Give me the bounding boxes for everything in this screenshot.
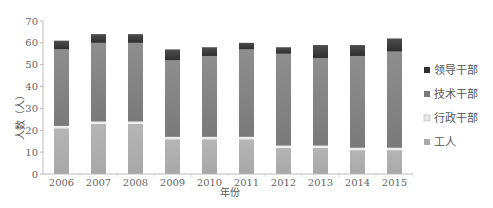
y-tick-label: 10 [25,147,38,158]
x-tick-label: 2010 [197,177,222,188]
x-tick-label: 2013 [308,177,333,188]
x-tick-label: 2006 [49,177,74,188]
x-tick-label: 2012 [271,177,296,188]
legend-label: 领导干部 [434,63,478,77]
bar-segment [54,49,69,126]
y-tick-label: 0 [32,169,38,180]
bar-2007 [91,34,106,174]
bar-segment [276,148,291,174]
bar-segment [313,146,328,148]
x-axis-title: 年份 [220,186,240,198]
bar-segment [91,124,106,174]
y-tick-label: 60 [25,37,38,48]
bar-segment [387,52,402,148]
legend-label: 技术干部 [434,87,478,101]
bar-segment [313,58,328,145]
bar-segment [313,148,328,174]
bar-segment [350,150,365,174]
legend-item: 技术干部 [424,87,478,101]
bar-segment [91,34,106,43]
bar-segment [165,139,180,174]
bar-segment [350,148,365,150]
legend-swatch [424,115,430,121]
bar-segment [239,49,254,136]
legend-item: 领导干部 [424,63,478,77]
bar-segment [128,34,143,43]
legend-label: 行政干部 [434,111,478,125]
bar-2008 [128,34,143,174]
bar-segment [239,137,254,139]
x-tick-label: 2014 [345,177,370,188]
bar-2015 [387,38,402,174]
bar-segment [239,139,254,174]
bar-segment [202,56,217,137]
legend-swatch [424,139,430,145]
bar-2006 [54,41,69,174]
bar-segment [313,45,328,58]
bar-2009 [165,49,180,174]
bar-2014 [350,45,365,174]
bar-segment [165,137,180,139]
bar-segment [387,148,402,150]
bar-segment [350,45,365,56]
bar-segment [128,122,143,124]
legend: 领导干部技术干部行政干部工人 [424,63,478,149]
y-tick-label: 50 [25,59,38,70]
bar-segment [54,126,69,128]
bar-2012 [276,47,291,174]
bars [54,34,402,174]
x-axis: 2006200720082009201020112012201320142015 [43,174,413,188]
bar-2011 [239,43,254,174]
legend-swatch [424,91,430,97]
y-tick-label: 40 [25,81,38,92]
y-tick-label: 20 [25,125,38,136]
bar-segment [239,43,254,50]
bar-segment [165,60,180,137]
bar-segment [128,43,143,122]
bar-segment [91,43,106,122]
bar-segment [276,146,291,148]
bar-2010 [202,47,217,174]
bar-segment [387,150,402,174]
bar-segment [202,47,217,56]
legend-item: 工人 [424,136,456,149]
bar-segment [54,128,69,174]
y-axis: 010203040506070 [25,16,43,180]
bar-segment [387,38,402,51]
y-tick-label: 70 [25,16,38,27]
bar-segment [91,122,106,124]
x-tick-label: 2008 [123,177,148,188]
y-tick-label: 30 [25,103,38,114]
bar-2013 [313,45,328,174]
bar-segment [202,137,217,139]
x-tick-label: 2007 [86,177,111,188]
bar-segment [54,41,69,50]
x-tick-label: 2009 [160,177,185,188]
bar-segment [128,124,143,174]
x-tick-label: 2015 [382,177,407,188]
bar-segment [276,54,291,146]
bar-segment [350,56,365,148]
legend-label: 工人 [434,136,456,149]
y-axis-title: 人数（人） [14,90,26,140]
stacked-bar-chart: 010203040506070 200620072008200920102011… [0,0,493,208]
bar-segment [202,139,217,174]
bar-segment [276,47,291,54]
legend-item: 行政干部 [424,111,478,125]
bar-segment [165,49,180,60]
legend-swatch [424,67,430,73]
